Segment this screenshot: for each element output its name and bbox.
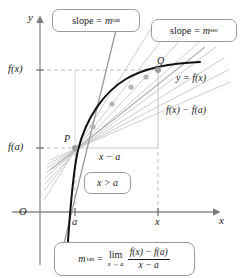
callout-tangent-equals: = <box>96 16 102 26</box>
formula-denominator: x − a <box>137 260 161 271</box>
formula-equals: = <box>97 254 103 264</box>
formula-lhs-symbol: m <box>78 254 85 264</box>
curve-dot-1 <box>90 124 95 129</box>
callout-inequality: x > a <box>84 172 131 194</box>
point-P-label: P <box>64 134 70 144</box>
point-Q-marker <box>155 67 161 73</box>
y-tick-label-fa: f(a) <box>8 142 23 153</box>
formula-numerator: f(x) − f(a) <box>128 248 170 260</box>
curve-dot-3 <box>128 84 133 89</box>
callout-secant-subscript: sec <box>210 27 218 33</box>
tangent-limit-figure: y x O f(x) f(a) a x P Q y = f(x) f(x) − … <box>0 0 244 278</box>
inequality-operator: > <box>104 178 110 188</box>
callout-secant-slope: slope = msec <box>151 19 237 42</box>
callout-tangent-lead: slope <box>72 16 93 26</box>
curve-equation-label: y = f(x) <box>176 73 206 83</box>
run-label: x − a <box>99 152 120 162</box>
y-axis-label: y <box>28 12 33 23</box>
y-tick-label-fx: f(x) <box>8 64 23 75</box>
curve-dot-4 <box>143 74 148 79</box>
callout-tangent-subscript: tan <box>112 17 120 23</box>
x-tick-label-a: a <box>72 217 77 228</box>
formula-limit-word: lim <box>109 250 122 260</box>
callout-secant-lead: slope <box>170 26 191 36</box>
inequality-left: x <box>97 178 101 188</box>
x-axis-label: x <box>219 215 224 226</box>
callout-tangent-formula: mtan = lim x → a f(x) − f(a) x − a <box>54 242 195 276</box>
function-curve <box>66 62 200 272</box>
rise-run-rectangle <box>75 70 158 148</box>
formula-lhs-subscript: tan <box>87 256 95 262</box>
x-tick-label-x: x <box>155 217 160 228</box>
callout-tangent-slope: slope = mtan <box>52 9 140 32</box>
callout-secant-equals: = <box>194 26 200 36</box>
callout-tangent-symbol: m <box>105 16 112 26</box>
curve-dot-2 <box>109 101 114 106</box>
formula-fraction: f(x) − f(a) x − a <box>128 248 170 270</box>
formula-row: mtan = lim x → a f(x) − f(a) x − a <box>78 248 170 270</box>
callout-secant-symbol: m <box>203 26 210 36</box>
rise-label: f(x) − f(a) <box>166 105 206 115</box>
tangent-line <box>58 26 117 268</box>
inequality-right: a <box>113 178 118 188</box>
point-P-marker <box>72 145 78 151</box>
axes <box>12 22 214 265</box>
origin-label: O <box>19 207 27 218</box>
formula-limit-operator: lim x → a <box>108 250 124 268</box>
point-Q-label: Q <box>157 56 164 66</box>
formula-limit-subscript: x → a <box>108 261 124 268</box>
